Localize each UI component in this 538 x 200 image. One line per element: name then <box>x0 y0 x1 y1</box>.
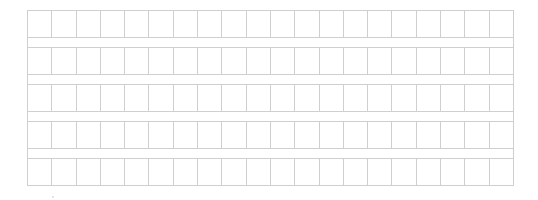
grid-cell <box>125 11 149 37</box>
grid-cell <box>52 85 76 111</box>
grid-cell <box>222 85 246 111</box>
grid-cell <box>344 159 368 185</box>
grid-cell <box>344 122 368 148</box>
grid-cell <box>198 122 222 148</box>
grid-cell <box>271 11 295 37</box>
grid-cell <box>320 48 344 74</box>
grid-cell <box>198 159 222 185</box>
grid-cell <box>247 48 271 74</box>
grid-cell <box>247 159 271 185</box>
row-spacer <box>27 149 514 158</box>
grid-cell <box>222 122 246 148</box>
grid-row <box>27 47 514 75</box>
grid-cell <box>441 122 465 148</box>
grid-cell <box>52 159 76 185</box>
grid-cell <box>101 11 125 37</box>
grid-cell <box>149 85 173 111</box>
grid-cell <box>52 48 76 74</box>
grid-cell <box>368 159 392 185</box>
grid-cell <box>77 48 101 74</box>
grid-cell <box>392 122 416 148</box>
grid-cell <box>222 48 246 74</box>
grid-cell <box>52 122 76 148</box>
grid-cell <box>295 48 319 74</box>
grid-cell <box>198 85 222 111</box>
grid-cell <box>77 11 101 37</box>
grid-cell <box>417 122 441 148</box>
grid-cell <box>77 122 101 148</box>
grid-cell <box>417 11 441 37</box>
grid-cell <box>271 85 295 111</box>
grid-cell <box>465 159 489 185</box>
grid-cell <box>28 122 52 148</box>
grid-cell <box>465 48 489 74</box>
grid-cell <box>465 85 489 111</box>
grid-cell <box>271 48 295 74</box>
grid-cell <box>295 85 319 111</box>
grid-cell <box>392 159 416 185</box>
grid-cell <box>441 48 465 74</box>
grid-cell <box>490 11 513 37</box>
grid-row <box>27 121 514 149</box>
grid-cell <box>441 159 465 185</box>
grid-cell <box>222 159 246 185</box>
grid-cell <box>368 48 392 74</box>
grid-cell <box>174 122 198 148</box>
grid-cell <box>149 48 173 74</box>
grid-cell <box>247 85 271 111</box>
row-spacer <box>27 38 514 47</box>
grid-cell <box>392 85 416 111</box>
grid-cell <box>295 122 319 148</box>
grid-cell <box>125 122 149 148</box>
grid-cell <box>417 48 441 74</box>
grid-cell <box>465 11 489 37</box>
grid-cell <box>320 85 344 111</box>
grid-cell <box>101 159 125 185</box>
grid-cell <box>125 48 149 74</box>
grid-cell <box>198 11 222 37</box>
grid-cell <box>295 159 319 185</box>
grid-cell <box>392 48 416 74</box>
grid-cell <box>125 85 149 111</box>
grid-cell <box>28 11 52 37</box>
grid-cell <box>368 85 392 111</box>
grid-cell <box>441 11 465 37</box>
grid-cell <box>174 11 198 37</box>
grid-cell <box>295 11 319 37</box>
grid-cell <box>490 85 513 111</box>
grid-cell <box>174 85 198 111</box>
grid-cell <box>125 159 149 185</box>
grid-cell <box>271 159 295 185</box>
grid-cell <box>490 159 513 185</box>
grid-cell <box>465 122 489 148</box>
grid-cell <box>441 85 465 111</box>
writing-grid <box>27 10 514 186</box>
grid-cell <box>490 48 513 74</box>
grid-cell <box>368 122 392 148</box>
grid-cell <box>28 159 52 185</box>
grid-cell <box>344 11 368 37</box>
grid-cell <box>101 85 125 111</box>
grid-cell <box>222 11 246 37</box>
grid-cell <box>149 122 173 148</box>
grid-cell <box>174 159 198 185</box>
grid-row <box>27 10 514 38</box>
grid-cell <box>149 159 173 185</box>
grid-cell <box>344 85 368 111</box>
grid-cell <box>417 85 441 111</box>
grid-cell <box>77 159 101 185</box>
grid-cell <box>247 122 271 148</box>
grid-cell <box>392 11 416 37</box>
grid-cell <box>368 11 392 37</box>
grid-cell <box>320 159 344 185</box>
grid-cell <box>101 122 125 148</box>
grid-cell <box>271 122 295 148</box>
grid-cell <box>77 85 101 111</box>
grid-cell <box>174 48 198 74</box>
grid-cell <box>490 122 513 148</box>
grid-cell <box>344 48 368 74</box>
grid-cell <box>247 11 271 37</box>
grid-cell <box>28 85 52 111</box>
grid-cell <box>320 11 344 37</box>
speck-mark <box>52 196 54 198</box>
